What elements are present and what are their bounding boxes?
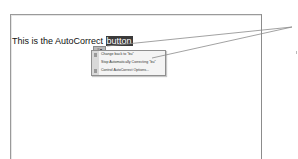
callout-line-button	[107, 27, 292, 46]
callout-lines	[0, 0, 298, 159]
edge-mark	[296, 51, 297, 54]
callout-line-menu	[152, 27, 292, 58]
